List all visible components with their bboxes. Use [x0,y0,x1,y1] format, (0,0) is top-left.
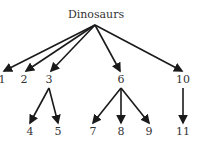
arrow-edge [26,25,95,71]
tree-node-6: 6 [118,73,125,86]
tree-node-1: 1 [0,73,6,86]
arrow-edge [121,88,149,123]
tree-edges [4,25,183,123]
arrow-edge [4,25,95,71]
tree-node-8: 8 [118,125,125,138]
tree-node-7: 7 [90,125,97,138]
arrow-edge [49,88,58,123]
tree-node-9: 9 [146,125,153,138]
arrow-edge [30,88,49,123]
tree-node-10: 10 [176,73,190,86]
tree-node-11: 11 [176,125,190,138]
tree-node-2: 2 [21,73,28,86]
tree-node-5: 5 [55,125,62,138]
tree-nodes: 1236104578911 [0,73,190,138]
arrow-edge [93,88,121,123]
root-node-dinosaurs: Dinosaurs [68,8,125,21]
arrow-edge [51,25,95,71]
tree-node-4: 4 [27,125,34,138]
dinosaur-tree-diagram: Dinosaurs 1236104578911 [0,0,199,145]
tree-node-3: 3 [46,73,53,86]
